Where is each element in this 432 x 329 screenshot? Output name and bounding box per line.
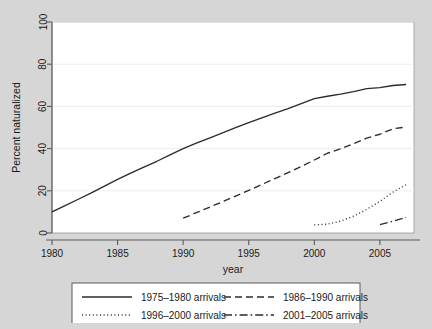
y-tick-label-40: 40 [38,143,49,155]
y-tick-label-20: 20 [38,185,49,197]
legend-label-3: 1996–2000 arrivals [141,310,226,321]
legend-label-4: 2001–2005 arrivals [283,310,368,321]
x-tick-label-1990: 1990 [172,248,195,259]
plot-area-background [52,22,414,233]
x-tick-label-2000: 2000 [303,248,326,259]
y-tick-label-100: 100 [38,13,49,30]
x-tick-label-1995: 1995 [238,248,261,259]
y-axis-title: Percent naturalized [10,82,22,173]
y-tick-label-0: 0 [38,230,49,236]
x-tick-label-1980: 1980 [41,248,64,259]
legend-label-2: 1986–1990 arrivals [283,292,368,303]
x-tick-label-2005: 2005 [369,248,392,259]
figure-inner: 020406080100198019851990199520002005year… [6,6,426,323]
legend-label-1: 1975–1980 arrivals [141,292,226,303]
x-tick-label-1985: 1985 [106,248,129,259]
line-chart: 020406080100198019851990199520002005year… [6,6,426,323]
y-tick-label-60: 60 [38,100,49,112]
y-tick-label-80: 80 [38,58,49,70]
chart-figure: 020406080100198019851990199520002005year… [0,0,432,329]
x-axis-title: year [223,263,244,275]
